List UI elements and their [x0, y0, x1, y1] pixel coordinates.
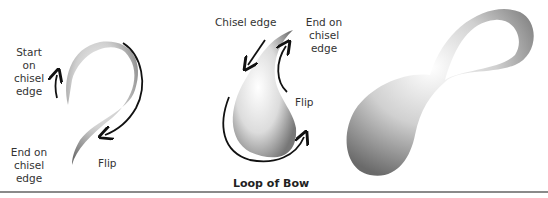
label-line: edge [302, 42, 346, 55]
label-line: edge [8, 85, 50, 98]
divider-rule [0, 191, 548, 193]
end-on-chisel-edge-label-2: End on chisel edge [302, 16, 346, 55]
end-on-chisel-edge-label: End on chisel edge [8, 146, 50, 185]
label-line: edge [8, 172, 50, 185]
label-line: chisel [8, 72, 50, 85]
figure3-stroke [347, 9, 534, 176]
figure1-stroke [66, 42, 138, 165]
start-on-chisel-edge-label: Start on chisel edge [8, 46, 50, 98]
figure2-stroke [233, 30, 296, 157]
label-line: End on [8, 146, 50, 159]
flip-label-2: Flip [295, 96, 314, 109]
arrow-icon [56, 75, 58, 98]
arrow-icon [105, 43, 142, 135]
figure-caption: Loop of Bow [233, 177, 309, 190]
label-line: End on [302, 16, 346, 29]
flip-label: Flip [98, 157, 117, 170]
chisel-edge-label: Chisel edge [215, 16, 276, 29]
label-line: chisel [8, 159, 50, 172]
stroke-illustrations [0, 0, 548, 198]
label-line: chisel [302, 29, 346, 42]
label-line: Start on [8, 46, 50, 72]
arrow-icon [278, 46, 287, 92]
